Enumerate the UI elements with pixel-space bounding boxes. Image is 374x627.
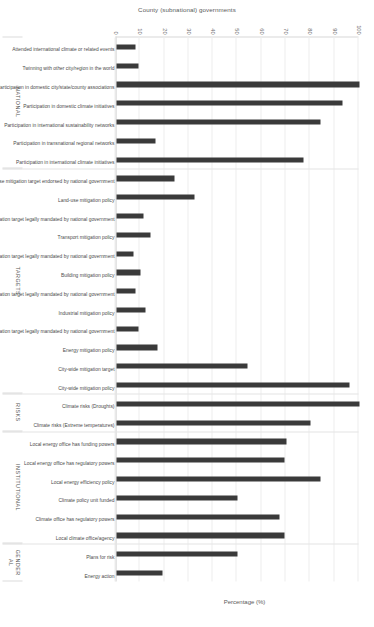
category-tick-label: Climate risks (Droughts): [62, 404, 114, 409]
bar[interactable]: [116, 382, 349, 387]
group-separator: [22, 543, 358, 544]
value-axis-title-text: Percentage (%): [224, 599, 266, 605]
category-tick-label: Energy mitigation policy: [62, 348, 114, 353]
category-tick-label: Twinning with other city/region in the w…: [22, 66, 114, 71]
group-label-text: TARGETS: [13, 266, 22, 295]
group-label-text: NATIONAL: [13, 86, 22, 117]
category-tick-label: Industrial mitigation policy: [58, 311, 114, 316]
category-tick-label: Local energy office has regulatory power…: [24, 461, 114, 466]
group-label-text: RISKS: [13, 403, 22, 422]
bar[interactable]: [116, 401, 359, 406]
category-labels: Attended international climate or relate…: [22, 36, 114, 581]
bar[interactable]: [116, 232, 150, 237]
bar[interactable]: [116, 551, 238, 556]
value-axis-tick-label: 90: [331, 28, 337, 34]
category-tick-label: Transport mitigation policy: [57, 235, 114, 240]
bar[interactable]: [116, 194, 194, 199]
bar[interactable]: [116, 138, 155, 143]
value-axis-tick-label: 100: [355, 25, 361, 34]
gridline: [333, 37, 334, 581]
bar[interactable]: [116, 532, 284, 537]
bar[interactable]: [116, 157, 303, 162]
bar[interactable]: [116, 119, 320, 124]
bar[interactable]: [116, 81, 359, 86]
category-axis-title: County (subnational) governments: [0, 2, 374, 16]
group-label-targets: TARGETS: [2, 168, 22, 394]
gridline: [357, 37, 358, 581]
bar[interactable]: [116, 288, 135, 293]
category-tick-label: Local energy office has funding powers: [29, 442, 114, 447]
category-tick-label: Participation in domestic climate initia…: [23, 104, 114, 109]
group-label-gender-al: GENDER AL: [2, 543, 22, 581]
bar[interactable]: [116, 251, 133, 256]
value-axis-tick-label: 10: [136, 28, 142, 34]
rotated-figure-wrapper: County (subnational) governments 0102030…: [0, 0, 374, 627]
group-band: NATIONALTARGETSRISKSINSTITUTIONALGENDER …: [2, 36, 22, 581]
category-tick-label: Building mitigation policy: [60, 273, 114, 278]
bar-chart-figure: County (subnational) governments 0102030…: [0, 0, 374, 627]
category-tick-label: Climate policy unit funded: [58, 498, 114, 503]
bar[interactable]: [116, 269, 140, 274]
category-axis-title-text: County (subnational) governments: [138, 6, 236, 13]
value-axis-tick-label: 40: [209, 28, 215, 34]
bar[interactable]: [116, 326, 138, 331]
bar[interactable]: [116, 307, 145, 312]
bar[interactable]: [116, 420, 310, 425]
bar[interactable]: [116, 363, 247, 368]
category-tick-label: City-wide mitigation policy: [58, 386, 114, 391]
group-label-text: GENDER AL: [7, 549, 23, 575]
category-tick-label: Attended international climate or relate…: [12, 47, 114, 52]
category-tick-label: Climate office has regulatory powers: [35, 517, 114, 522]
value-axis-tick-label: 20: [161, 28, 167, 34]
value-axis-title: Percentage (%): [115, 595, 374, 609]
bar[interactable]: [116, 44, 135, 49]
bar[interactable]: [116, 457, 284, 462]
group-label-national: NATIONAL: [2, 36, 22, 168]
group-label-institutional: INSTITUTIONAL: [2, 431, 22, 544]
category-tick-label: Climate risks (Extreme temperatures): [33, 423, 114, 428]
bar[interactable]: [116, 175, 174, 180]
bar[interactable]: [116, 100, 342, 105]
group-separator: [22, 168, 358, 169]
bar[interactable]: [116, 438, 286, 443]
category-tick-label: Plans for risk: [86, 555, 114, 560]
category-tick-label: Local energy efficiency policy: [50, 480, 114, 485]
category-tick-label: Energy action: [84, 574, 114, 579]
bar[interactable]: [116, 63, 138, 68]
group-label-text: INSTITUTIONAL: [13, 464, 22, 511]
bar[interactable]: [116, 514, 279, 519]
value-axis-tick-label: 50: [234, 28, 240, 34]
chart-stage: County (subnational) governments 0102030…: [0, 0, 374, 627]
bar[interactable]: [116, 570, 162, 575]
value-axis-tick-label: 80: [306, 28, 312, 34]
category-tick-label: City-wide mitigation target: [58, 367, 114, 372]
category-tick-label: Local climate office/agency: [55, 536, 114, 541]
value-axis-tick-label: 70: [282, 28, 288, 34]
plot-area: 0102030405060708090100: [115, 36, 358, 581]
bar[interactable]: [116, 476, 320, 481]
value-axis-tick-label: 30: [185, 28, 191, 34]
group-separator: [22, 393, 358, 394]
value-axis-tick-label: 60: [258, 28, 264, 34]
bar[interactable]: [116, 213, 143, 218]
value-axis-tick-label: 0: [112, 31, 118, 34]
category-tick-label: Participation in transnational regional …: [13, 141, 114, 146]
group-separator: [22, 431, 358, 432]
bar[interactable]: [116, 495, 238, 500]
bar[interactable]: [116, 344, 157, 349]
category-tick-label: Land-use mitigation policy: [57, 198, 114, 203]
group-label-risks: RISKS: [2, 393, 22, 431]
category-tick-label: Participation in international climate i…: [16, 160, 114, 165]
